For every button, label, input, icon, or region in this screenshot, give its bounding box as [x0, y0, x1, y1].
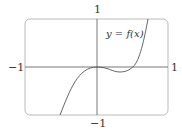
y-tick-top: 1 — [94, 4, 101, 15]
x-tick-right: 1 — [171, 62, 178, 73]
x-tick-left: −1 — [8, 62, 24, 73]
function-label: y = f(x) — [106, 29, 144, 39]
plot-area — [0, 0, 182, 134]
y-tick-bottom: −1 — [90, 118, 106, 129]
